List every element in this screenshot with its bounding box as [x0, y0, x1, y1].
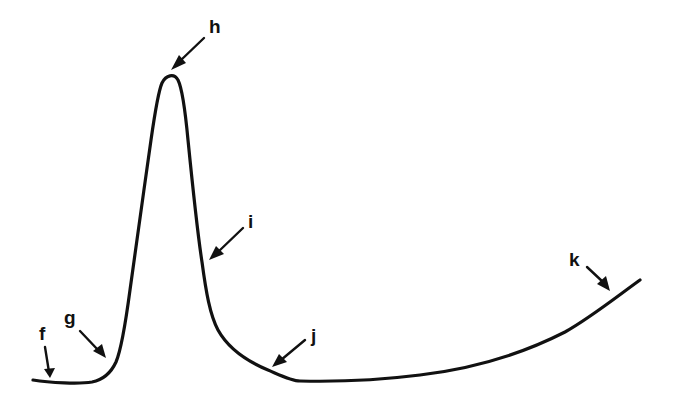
label-i: i	[248, 212, 253, 231]
arrow-i-icon	[209, 228, 243, 260]
label-k: k	[569, 250, 580, 269]
response-curve	[33, 76, 640, 383]
arrow-k-icon	[587, 267, 610, 291]
arrow-g-icon	[80, 331, 106, 358]
label-f: f	[39, 324, 45, 343]
label-h: h	[209, 17, 221, 36]
arrow-f-icon	[44, 347, 55, 378]
label-g: g	[64, 308, 76, 327]
arrow-h-icon	[171, 38, 204, 70]
arrow-j-icon	[272, 340, 305, 367]
label-j: j	[311, 326, 316, 345]
curve-diagram	[0, 0, 680, 403]
